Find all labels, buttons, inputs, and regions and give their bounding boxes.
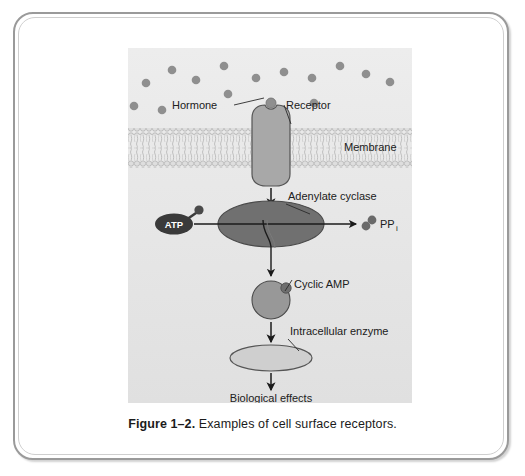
membrane-label: Membrane [344, 141, 397, 153]
ppi-label: PP [380, 218, 395, 230]
hormone-dot [280, 68, 289, 77]
receptor-protein [252, 105, 290, 186]
hormone-dot [362, 70, 371, 79]
intracellular-enzyme-label: Intracellular enzyme [290, 325, 388, 337]
figure-page: Hormone Receptor Membrane Adenylate cycl… [0, 0, 525, 476]
atp-label: ATP [165, 219, 184, 230]
figure-caption-text: Examples of cell surface receptors. [199, 417, 397, 431]
hormone-dot [142, 79, 151, 88]
hormone-dot [158, 106, 167, 115]
receptor-label: Receptor [286, 99, 331, 111]
intracellular-enzyme-body [230, 345, 312, 371]
adenylate-cyclase-label: Adenylate cyclase [288, 190, 377, 202]
hormone-dot [220, 62, 229, 71]
biological-effects-label: Biological effects [230, 392, 313, 403]
figure-illustration-panel: Hormone Receptor Membrane Adenylate cycl… [128, 48, 412, 403]
receptor-body [252, 105, 290, 186]
hormone-dot [308, 74, 317, 83]
figure-caption-number: Figure 1–2. [128, 417, 195, 431]
bound-hormone-dot [266, 98, 276, 108]
ppi-subscript: i [396, 224, 398, 233]
cyclic-amp-label: Cyclic AMP [294, 278, 350, 290]
signaling-pathway-diagram: Hormone Receptor Membrane Adenylate cycl… [128, 48, 412, 403]
hormone-label: Hormone [172, 99, 217, 111]
hormone-dot [336, 62, 345, 71]
hormone-dot [168, 66, 177, 75]
cyclic-amp-molecule [252, 281, 291, 319]
hormone-dot [224, 90, 233, 99]
hormone-dot [130, 102, 139, 111]
ppi-phosphate-dot-2 [368, 216, 377, 225]
hormone-dot [192, 76, 201, 85]
hormone-dot [386, 78, 395, 87]
figure-caption: Figure 1–2. Examples of cell surface rec… [0, 417, 525, 431]
hormone-dot [252, 74, 261, 83]
